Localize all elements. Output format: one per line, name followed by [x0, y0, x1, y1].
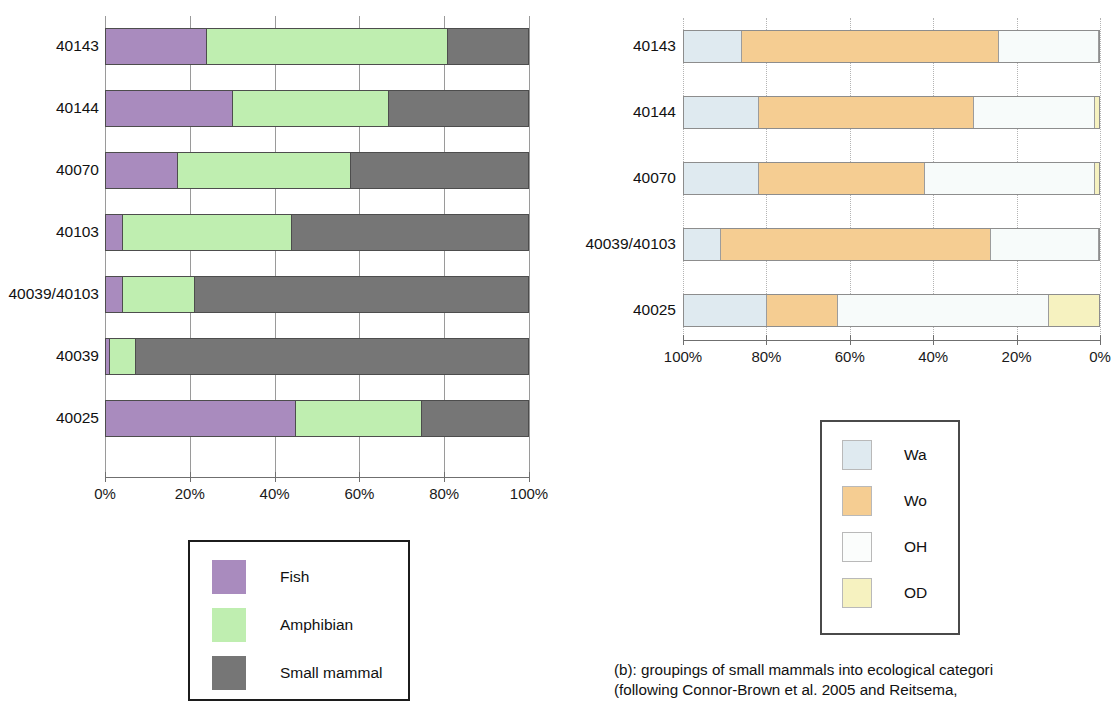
- axis-tick-label-100pct: 100%: [643, 348, 723, 365]
- bar-40143: [105, 28, 529, 65]
- bar-40070: [105, 152, 529, 189]
- axis-tick: [766, 335, 767, 345]
- bar-40039: [105, 338, 529, 375]
- bar-40039-40103: [105, 276, 529, 313]
- legend-item-wo: Wo: [842, 486, 927, 516]
- bar-40039-40103: [683, 228, 1100, 261]
- segment-amphibian: [207, 29, 448, 64]
- segment-wa: [684, 163, 759, 194]
- category-label-40025: 40025: [486, 301, 676, 319]
- segment-fish: [106, 91, 233, 126]
- axis-tick-label-40pct: 40%: [235, 485, 315, 502]
- legend-taxa: FishAmphibianSmall mammal: [188, 540, 410, 701]
- axis-tick-label-80pct: 80%: [726, 348, 806, 365]
- segment-wa: [684, 31, 742, 62]
- legend-swatch-wa: [842, 440, 872, 470]
- axis-tick: [275, 472, 276, 482]
- axis-tick: [529, 472, 530, 482]
- segment-amphibian: [123, 215, 292, 250]
- segment-wo: [759, 97, 975, 128]
- segment-oh: [991, 229, 1099, 260]
- segment-oh: [974, 97, 1094, 128]
- segment-amphibian: [178, 153, 351, 188]
- legend-label-od: OD: [904, 584, 927, 602]
- axis-tick: [190, 472, 191, 482]
- segment-oh: [999, 31, 1099, 62]
- axis-tick-label-60pct: 60%: [810, 348, 890, 365]
- legend-swatch-amphibian: [212, 608, 246, 642]
- category-label-40143: 40143: [486, 37, 676, 55]
- axis-tick-label-20pct: 20%: [977, 348, 1057, 365]
- category-label-40144: 40144: [0, 99, 99, 117]
- legend-item-od: OD: [842, 578, 927, 608]
- segment-wo: [759, 163, 925, 194]
- bar-40025: [683, 294, 1100, 327]
- axis-tick: [444, 472, 445, 482]
- segment-amphibian: [296, 401, 423, 436]
- category-label-40070: 40070: [0, 161, 99, 179]
- segment-small-mammal: [195, 277, 528, 312]
- axis-tick: [359, 472, 360, 482]
- legend-label-wa: Wa: [904, 446, 927, 464]
- segment-od: [1095, 97, 1099, 128]
- category-label-40103: 40103: [0, 223, 99, 241]
- segment-wa: [684, 229, 721, 260]
- axis-tick-label-0pct: 0%: [1060, 348, 1113, 365]
- category-label-40143: 40143: [0, 37, 99, 55]
- chart-a-taxa-proportions: 0%20%40%60%80%100%4014340144400704010340…: [0, 0, 560, 500]
- bar-40070: [683, 162, 1100, 195]
- segment-wo: [721, 229, 991, 260]
- segment-amphibian: [110, 339, 135, 374]
- category-label-40039-40103: 40039/40103: [0, 285, 99, 303]
- category-label-40025: 40025: [0, 409, 99, 427]
- legend-swatch-oh: [842, 532, 872, 562]
- caption-line-2: (following Connor-Brown et al. 2005 and …: [614, 680, 1113, 700]
- segment-wo: [742, 31, 999, 62]
- legend-item-amphibian: Amphibian: [212, 608, 353, 642]
- axis-tick: [1017, 335, 1018, 345]
- legend-item-oh: OH: [842, 532, 927, 562]
- legend-item-wa: Wa: [842, 440, 927, 470]
- gridline-0: [1100, 18, 1101, 342]
- legend-label-fish: Fish: [280, 568, 309, 586]
- legend-label-wo: Wo: [904, 492, 927, 510]
- legend-ecological-categories: WaWoOHOD: [820, 420, 960, 635]
- legend-swatch-od: [842, 578, 872, 608]
- segment-od: [1049, 295, 1099, 326]
- segment-oh: [925, 163, 1095, 194]
- axis-tick: [850, 335, 851, 345]
- category-label-40144: 40144: [486, 103, 676, 121]
- bar-40143: [683, 30, 1100, 63]
- legend-label-amphibian: Amphibian: [280, 616, 353, 634]
- segment-wa: [684, 97, 759, 128]
- axis-tick-label-0pct: 0%: [65, 485, 145, 502]
- axis-tick-label-80pct: 80%: [404, 485, 484, 502]
- segment-fish: [106, 401, 296, 436]
- segment-fish: [106, 215, 123, 250]
- segment-fish: [106, 153, 178, 188]
- axis-tick: [105, 472, 106, 482]
- axis-tick: [683, 335, 684, 345]
- segment-small-mammal: [136, 339, 528, 374]
- segment-fish: [106, 277, 123, 312]
- x-axis-line: [105, 477, 530, 478]
- segment-small-mammal: [422, 401, 528, 436]
- segment-oh: [838, 295, 1050, 326]
- axis-tick-label-60pct: 60%: [319, 485, 399, 502]
- bar-40144: [683, 96, 1100, 129]
- legend-item-fish: Fish: [212, 560, 309, 594]
- category-label-40039-40103: 40039/40103: [486, 235, 676, 253]
- axis-tick: [1100, 335, 1101, 345]
- segment-fish: [106, 29, 207, 64]
- axis-tick: [933, 335, 934, 345]
- segment-wa: [684, 295, 767, 326]
- legend-swatch-small-mammal: [212, 656, 246, 690]
- chart-b-small-mammal-ecology: 100%80%60%40%20%0%40143401444007040039/4…: [560, 0, 1113, 380]
- category-label-40070: 40070: [486, 169, 676, 187]
- x-axis-line: [683, 340, 1101, 341]
- segment-od: [1095, 163, 1099, 194]
- axis-tick-label-100pct: 100%: [489, 485, 569, 502]
- bar-40025: [105, 400, 529, 437]
- segment-amphibian: [233, 91, 389, 126]
- axis-tick-label-20pct: 20%: [150, 485, 230, 502]
